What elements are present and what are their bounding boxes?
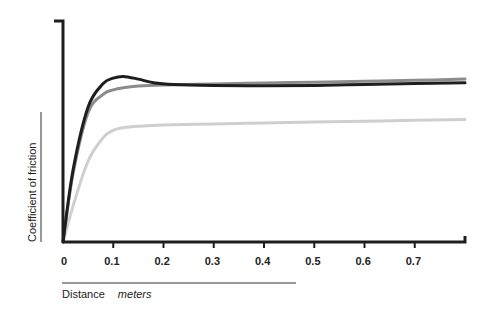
x-axis-label-text: Distance bbox=[62, 288, 105, 300]
x-tick-label: 0.3 bbox=[205, 255, 220, 267]
series-line bbox=[63, 76, 465, 242]
y-axis bbox=[54, 21, 63, 242]
x-tick-label: 0.6 bbox=[356, 255, 371, 267]
series-line bbox=[63, 120, 465, 242]
x-tick-label: 0.5 bbox=[305, 255, 320, 267]
y-axis-label: Coefficient of friction bbox=[26, 143, 38, 242]
x-tick-label: 0.4 bbox=[255, 255, 271, 267]
x-ticks: 00.10.20.30.40.50.60.7 bbox=[61, 242, 421, 267]
x-axis bbox=[63, 236, 465, 242]
x-tick-label: 0.7 bbox=[406, 255, 421, 267]
series-line bbox=[63, 79, 465, 242]
x-axis-label: Distance meters bbox=[62, 288, 152, 300]
x-tick-label: 0.2 bbox=[155, 255, 170, 267]
series-layer bbox=[63, 76, 465, 242]
x-tick-label: 0.1 bbox=[104, 255, 119, 267]
x-axis-unit: meters bbox=[118, 288, 152, 300]
friction-chart: Coefficient of friction 00.10.20.30.40.5… bbox=[0, 0, 486, 316]
x-tick-label: 0 bbox=[61, 255, 67, 267]
